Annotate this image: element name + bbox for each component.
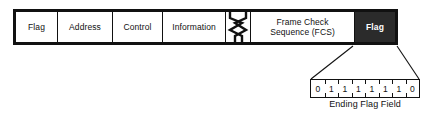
frame-field-information: Information [163, 12, 226, 42]
zigzag-break-icon [226, 12, 250, 42]
frame-field-information-label: Information [172, 22, 216, 32]
bit-cell: 1 [392, 80, 406, 97]
bit-cell: 1 [365, 80, 379, 97]
frame-field-flag-end-label: Flag [366, 22, 384, 32]
bit-value: 1 [369, 84, 374, 94]
bit-cell: 1 [379, 80, 393, 97]
frame-field-fcs: Frame Check Sequence (FCS) [250, 12, 355, 42]
frame-field-fcs-label: Frame Check Sequence (FCS) [270, 17, 335, 37]
frame-break-symbol [226, 12, 250, 42]
bit-cell: 1 [352, 80, 366, 97]
bit-cell: 1 [325, 80, 339, 97]
bit-value: 0 [410, 84, 415, 94]
frame-field-address-label: Address [69, 22, 101, 32]
hdlc-frame-diagram: Flag Address Control Information Frame C… [0, 0, 430, 116]
ending-flag-field-caption: Ending Flag Field [310, 99, 420, 109]
bit-value: 1 [396, 84, 401, 94]
frame-field-flag-start: Flag [16, 12, 58, 42]
frame-field-address: Address [58, 12, 113, 42]
frame-field-flag-start-label: Flag [28, 22, 45, 32]
bit-value: 1 [342, 84, 347, 94]
ending-flag-bitfield: 0 1 1 1 1 1 1 0 [310, 79, 420, 98]
bit-value: 1 [356, 84, 361, 94]
frame-field-control: Control [113, 12, 163, 42]
bit-value: 0 [315, 84, 320, 94]
frame-field-fcs-label-line2: Sequence (FCS) [270, 27, 335, 37]
leader-line-right [397, 46, 419, 79]
bit-cell: 0 [311, 80, 325, 97]
bit-value: 1 [383, 84, 388, 94]
bit-cell: 0 [406, 80, 420, 97]
frame-field-control-label: Control [123, 22, 151, 32]
bit-cell: 1 [338, 80, 352, 97]
frame-field-fcs-label-line1: Frame Check [276, 17, 328, 27]
frame-bar: Flag Address Control Information Frame C… [13, 9, 398, 45]
frame-field-flag-end: Flag [355, 12, 395, 42]
leader-line-left [311, 46, 353, 79]
bit-value: 1 [329, 84, 334, 94]
